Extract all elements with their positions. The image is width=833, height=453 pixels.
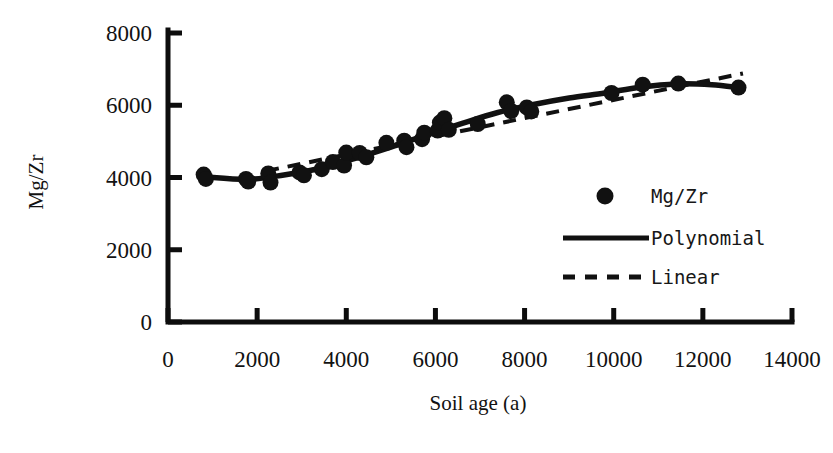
y-axis-tick-labels: 02000400060008000 — [106, 21, 152, 335]
x-tick-label-12000: 12000 — [674, 347, 732, 372]
data-point — [441, 122, 457, 138]
y-tick-label-8000: 8000 — [106, 21, 152, 46]
x-tick-label-0: 0 — [162, 347, 174, 372]
legend-marker-mg-zr-icon — [597, 188, 614, 205]
data-point — [416, 125, 432, 141]
x-tick-label-14000: 14000 — [763, 347, 821, 372]
x-tick-label-6000: 6000 — [412, 347, 458, 372]
data-point — [263, 175, 279, 191]
y-tick-label-6000: 6000 — [106, 93, 152, 118]
y-tick-label-0: 0 — [141, 310, 153, 335]
mg-zr-vs-soil-age-chart: 02000400060008000 0200040006000800010000… — [0, 0, 833, 453]
x-tick-label-2000: 2000 — [234, 347, 280, 372]
data-point — [398, 139, 414, 155]
data-point — [603, 85, 619, 101]
data-point — [670, 76, 686, 92]
data-point — [198, 171, 214, 187]
y-tick-label-4000: 4000 — [106, 166, 152, 191]
y-axis-title: Mg/Zr — [24, 155, 48, 210]
x-axis-tick-labels: 02000400060008000100001200014000 — [162, 347, 821, 372]
data-point — [635, 77, 651, 93]
data-point — [240, 173, 256, 189]
legend-label-linear: Linear — [651, 266, 720, 288]
x-tick-label-8000: 8000 — [502, 347, 548, 372]
data-point — [296, 167, 312, 183]
data-point — [470, 116, 486, 132]
data-point — [503, 103, 519, 119]
data-point — [378, 135, 394, 151]
data-point — [523, 103, 539, 119]
legend-label-mg-zr: Mg/Zr — [651, 185, 708, 207]
data-point — [731, 80, 747, 96]
y-tick-label-2000: 2000 — [106, 238, 152, 263]
legend-label-polynomial: Polynomial — [651, 227, 765, 249]
x-tick-label-4000: 4000 — [323, 347, 369, 372]
data-point — [358, 149, 374, 165]
x-tick-label-10000: 10000 — [585, 347, 643, 372]
x-axis-title: Soil age (a) — [430, 391, 527, 415]
chart-figure: 02000400060008000 0200040006000800010000… — [0, 0, 833, 453]
